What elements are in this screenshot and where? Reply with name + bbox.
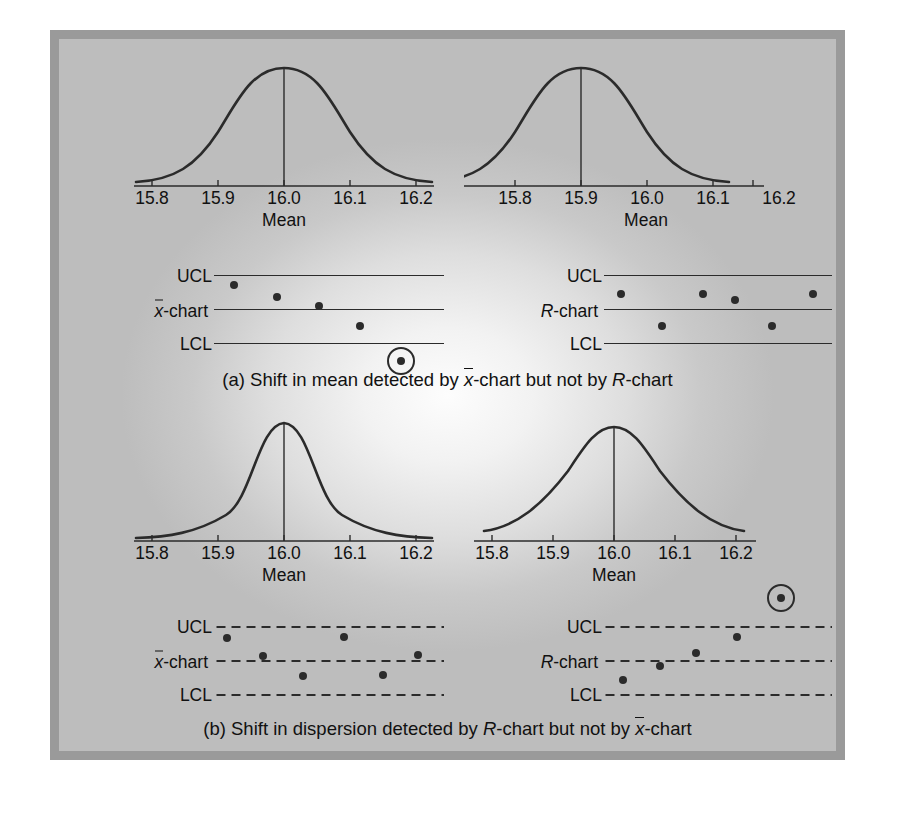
data-point [259, 652, 267, 660]
control-chart-b-r: R-chart UCL LCL [604, 624, 832, 700]
axis-caption: Mean [464, 565, 764, 586]
data-point [223, 634, 231, 642]
data-point [414, 651, 422, 659]
data-point [731, 296, 739, 304]
data-point [340, 633, 348, 641]
dist-a-right: 15.8 15.9 16.0 16.1 16.2 Mean [464, 54, 764, 219]
lcl-line: LCL [604, 343, 832, 344]
axis-tick: 16.2 [393, 543, 439, 564]
r-symbol: R [541, 301, 554, 321]
axis-tick: 16.2 [393, 188, 439, 209]
data-point [733, 633, 741, 641]
center-line [214, 309, 444, 310]
lcl-line: LCL [604, 694, 832, 696]
dist-b-left: 15.8 15.9 16.0 16.1 16.2 Mean [134, 409, 434, 574]
axis-tick: 16.1 [652, 543, 698, 564]
xbar-symbol: x [155, 652, 164, 673]
data-point [809, 290, 817, 298]
data-point [379, 671, 387, 679]
axis-tick: 16.0 [261, 188, 307, 209]
axis-tick: 16.2 [713, 543, 759, 564]
axis-tick: 16.1 [690, 188, 736, 209]
r-symbol: R [612, 369, 625, 390]
chart-label-r: R-chart [541, 301, 604, 322]
lcl-label: LCL [570, 685, 604, 706]
ucl-label: UCL [177, 266, 214, 287]
lcl-label: LCL [570, 334, 604, 355]
ucl-line: UCL [604, 275, 832, 276]
r-symbol: R [483, 718, 496, 739]
ucl-line: UCL [214, 626, 444, 628]
r-symbol: R [541, 652, 554, 672]
axis-caption: Mean [134, 565, 434, 586]
center-line [214, 660, 444, 662]
figure-frame: 15.8 15.9 16.0 16.1 16.2 Mean 15.8 15.9 … [50, 30, 845, 760]
axis-tick: 16.0 [591, 543, 637, 564]
data-point [617, 290, 625, 298]
axis-tick: 16.0 [261, 543, 307, 564]
data-point [768, 322, 776, 330]
chart-label-xbar: x-chart [155, 652, 214, 673]
data-point [699, 290, 707, 298]
chart-label-xbar: x-chart [155, 301, 214, 322]
ucl-label: UCL [567, 266, 604, 287]
data-point [692, 649, 700, 657]
data-point [299, 672, 307, 680]
axis-tick: 15.8 [129, 543, 175, 564]
ucl-label: UCL [567, 617, 604, 638]
axis-tick: 15.8 [469, 543, 515, 564]
data-point [356, 322, 364, 330]
narrow-curve-b-left [134, 409, 434, 554]
wide-curve-b-right [464, 409, 764, 554]
ucl-line: UCL [214, 275, 444, 276]
center-line [604, 309, 832, 310]
dist-a-left: 15.8 15.9 16.0 16.1 16.2 Mean [134, 54, 434, 219]
ucl-label: UCL [177, 617, 214, 638]
data-point [658, 322, 666, 330]
axis-tick: 16.1 [327, 188, 373, 209]
chart-label-r: R-chart [541, 652, 604, 673]
axis-caption: Mean [496, 210, 796, 231]
control-chart-a-xbar: x-chart UCL LCL [214, 273, 444, 349]
axis-tick: 15.9 [558, 188, 604, 209]
lcl-label: LCL [180, 685, 214, 706]
data-point [230, 281, 238, 289]
data-point [656, 662, 664, 670]
lcl-line: LCL [214, 694, 444, 696]
lcl-line: LCL [214, 343, 444, 344]
control-chart-b-xbar: x-chart UCL LCL [214, 624, 444, 700]
ucl-line: UCL [604, 626, 832, 628]
normal-curve-a-left [134, 54, 434, 199]
control-chart-a-r: R-chart UCL LCL [604, 273, 832, 349]
data-point [619, 676, 627, 684]
axis-tick: 15.9 [195, 543, 241, 564]
data-point [315, 302, 323, 310]
axis-tick: 16.0 [624, 188, 670, 209]
axis-caption: Mean [134, 210, 434, 231]
normal-curve-a-right [464, 54, 764, 199]
section-caption-a: (a) Shift in mean detected by x-chart bu… [59, 369, 836, 391]
axis-tick: 16.2 [756, 188, 802, 209]
xbar-symbol: x [155, 301, 164, 322]
axis-tick: 15.8 [492, 188, 538, 209]
dist-b-right: 15.8 15.9 16.0 16.1 16.2 Mean [464, 409, 764, 574]
center-line [604, 660, 832, 662]
lcl-label: LCL [180, 334, 214, 355]
axis-tick: 15.8 [129, 188, 175, 209]
section-caption-b: (b) Shift in dispersion detected by R-ch… [59, 718, 836, 740]
xbar-symbol: x [464, 369, 473, 391]
data-point [273, 293, 281, 301]
axis-tick: 16.1 [327, 543, 373, 564]
axis-tick: 15.9 [530, 543, 576, 564]
xbar-symbol: x [635, 718, 644, 740]
out-of-control-marker [767, 584, 795, 612]
axis-tick: 15.9 [195, 188, 241, 209]
